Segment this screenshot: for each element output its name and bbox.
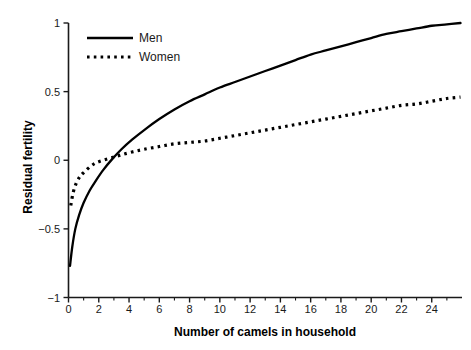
x-tick-label-3: 6 (156, 304, 162, 315)
x-tick-label-7: 14 (274, 304, 286, 315)
x-tick-label-10: 20 (365, 304, 377, 315)
legend-label-women: Women (139, 50, 180, 64)
x-tick-label-4: 8 (187, 304, 193, 315)
x-tick-label-6: 12 (244, 304, 256, 315)
y-tick-label-0: −1 (20, 292, 60, 303)
x-axis-title: Number of camels in household (68, 325, 462, 339)
legend-line-samples (87, 38, 133, 57)
x-tick-label-0: 0 (65, 304, 71, 315)
x-tick-label-1: 2 (96, 304, 102, 315)
y-tick-label-4: 1 (20, 18, 60, 29)
axis-lines (69, 23, 463, 298)
x-tick-label-11: 22 (395, 304, 407, 315)
series-line-men (70, 23, 460, 266)
x-tick-label-12: 24 (426, 304, 438, 315)
data-series-group (70, 23, 460, 266)
plot-canvas (0, 0, 471, 350)
x-tick-label-5: 10 (214, 304, 226, 315)
x-tick-label-2: 4 (126, 304, 132, 315)
chart-figure: −1−0.500.51024681012141618202224 Residua… (0, 0, 471, 350)
x-tick-label-9: 18 (335, 304, 347, 315)
series-line-women (71, 97, 461, 205)
legend-label-men: Men (139, 31, 162, 45)
y-axis-title: Residual fertility (21, 87, 35, 247)
x-tick-label-8: 16 (305, 304, 317, 315)
